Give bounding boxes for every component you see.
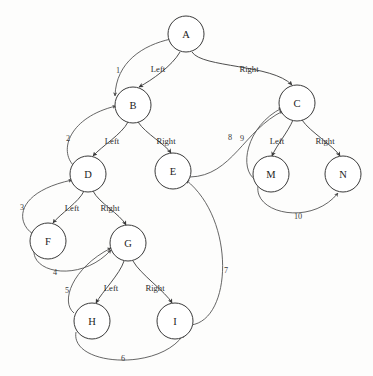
child-edge-label-A-C: Right bbox=[239, 64, 259, 74]
tree-node-label-D: D bbox=[84, 169, 92, 180]
tree-node-I[interactable]: I bbox=[157, 303, 193, 339]
traversal-edge-label-1: 1 bbox=[116, 66, 120, 75]
tree-node-D[interactable]: D bbox=[70, 156, 106, 192]
traversal-edge-label-9: 9 bbox=[240, 134, 244, 143]
child-edge-G-H bbox=[96, 261, 124, 303]
tree-node-M[interactable]: M bbox=[253, 156, 289, 192]
tree-node-B[interactable]: B bbox=[115, 87, 151, 123]
tree-node-label-A: A bbox=[182, 29, 190, 40]
tree-node-label-H: H bbox=[88, 316, 96, 327]
traversal-edge-label-5: 5 bbox=[65, 286, 69, 295]
traversal-edge-7 bbox=[186, 180, 223, 325]
traversal-edge-label-2: 2 bbox=[66, 134, 70, 143]
traversal-edge-label-8: 8 bbox=[228, 133, 232, 142]
tree-node-F[interactable]: F bbox=[30, 223, 66, 259]
tree-node-label-F: F bbox=[45, 236, 51, 247]
tree-node-label-N: N bbox=[339, 169, 347, 180]
tree-node-label-I: I bbox=[173, 316, 177, 327]
child-edge-label-B-E: Right bbox=[156, 136, 176, 146]
child-edge-label-D-G: Right bbox=[100, 203, 120, 213]
child-edge-label-B-D: Left bbox=[105, 136, 120, 146]
traversal-edge-label-6: 6 bbox=[121, 354, 125, 363]
tree-node-label-B: B bbox=[129, 100, 136, 111]
tree-node-N[interactable]: N bbox=[325, 156, 361, 192]
traversal-edge-label-10: 10 bbox=[294, 212, 302, 221]
tree-diagram-canvas: ABCDEMNFGHI 12345678910LeftRightLeftRigh… bbox=[0, 0, 373, 376]
tree-node-E[interactable]: E bbox=[155, 153, 191, 189]
tree-node-H[interactable]: H bbox=[74, 303, 110, 339]
traversal-edge-label-4: 4 bbox=[53, 268, 57, 277]
child-edge-G-I bbox=[133, 261, 172, 303]
tree-node-C[interactable]: C bbox=[279, 85, 315, 121]
child-edge-label-C-M: Left bbox=[270, 136, 285, 146]
tree-diagram-svg: ABCDEMNFGHI 12345678910LeftRightLeftRigh… bbox=[0, 0, 373, 376]
tree-node-A[interactable]: A bbox=[168, 16, 204, 52]
child-edge-label-A-B: Left bbox=[151, 64, 166, 74]
traversal-edge-label-3: 3 bbox=[20, 203, 24, 212]
child-edge-label-G-I: Right bbox=[145, 283, 165, 293]
child-edge-label-D-F: Left bbox=[65, 203, 80, 213]
tree-node-G[interactable]: G bbox=[110, 225, 146, 261]
traversal-edge-label-7: 7 bbox=[224, 266, 228, 275]
tree-node-label-C: C bbox=[293, 98, 300, 109]
tree-node-label-M: M bbox=[266, 169, 276, 180]
tree-node-label-E: E bbox=[170, 166, 176, 177]
child-edge-label-C-N: Right bbox=[315, 136, 335, 146]
tree-node-label-G: G bbox=[124, 238, 132, 249]
node-layer: ABCDEMNFGHI bbox=[30, 16, 361, 339]
child-edge-label-G-H: Left bbox=[104, 283, 119, 293]
